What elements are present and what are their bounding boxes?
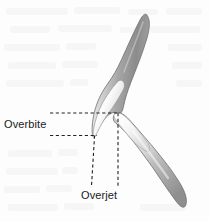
lower-incisor [113,113,186,208]
overjet-left-dashed-line [92,136,95,187]
overbite-label: Overbite [4,118,46,130]
dental-diagram-figure: Overbite Overjet [0,0,209,221]
lower-root-highlight [133,131,168,178]
overbite-measure-lines [50,113,120,136]
teeth-illustration [0,0,209,221]
overjet-label: Overjet [81,189,117,201]
